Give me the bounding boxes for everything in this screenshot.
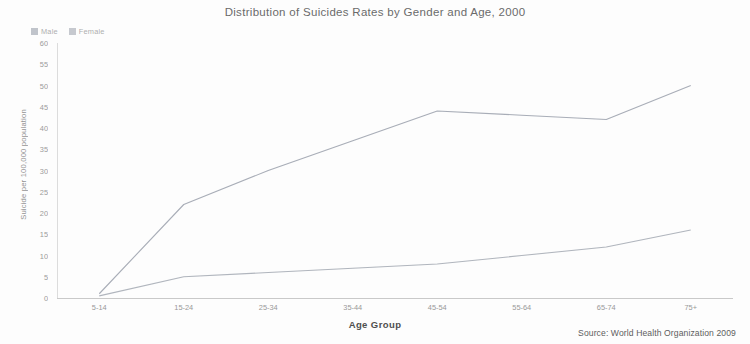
- y-axis-tick-label: 30: [22, 166, 48, 175]
- x-axis-line: [57, 298, 733, 299]
- y-axis-tick-label: 0: [22, 294, 48, 303]
- x-axis-tick-label: 75+: [651, 303, 731, 312]
- y-axis-tick-label: 5: [22, 272, 48, 281]
- series-line-male: [99, 86, 691, 294]
- y-axis: 051015202530354045505560: [14, 0, 48, 344]
- x-axis-tick-label: 25-34: [228, 303, 308, 312]
- x-axis-tick-label: 5-14: [59, 303, 139, 312]
- y-axis-tick-label: 50: [22, 81, 48, 90]
- y-axis-tick-label: 20: [22, 209, 48, 218]
- chart-title: Distribution of Suicides Rates by Gender…: [0, 6, 750, 18]
- series-line-female: [99, 230, 691, 296]
- legend-label: Female: [79, 27, 105, 36]
- y-axis-tick-label: 45: [22, 102, 48, 111]
- y-axis-tick-label: 15: [22, 230, 48, 239]
- x-axis-tick-label: 55-64: [482, 303, 562, 312]
- y-axis-tick-label: 35: [22, 145, 48, 154]
- x-axis-tick-label: 15-24: [144, 303, 224, 312]
- legend-swatch-icon: [69, 28, 76, 35]
- y-axis-tick-label: 25: [22, 187, 48, 196]
- x-axis-tick-label: 45-54: [397, 303, 477, 312]
- x-axis-tick-label: 35-44: [313, 303, 393, 312]
- y-axis-tick-label: 60: [22, 39, 48, 48]
- y-axis-tick-label: 10: [22, 251, 48, 260]
- y-axis-tick-label: 55: [22, 60, 48, 69]
- source-note: Source: World Health Organization 2009: [578, 328, 736, 338]
- legend-entry-female[interactable]: Female: [69, 27, 105, 36]
- chart-page: Distribution of Suicides Rates by Gender…: [0, 0, 750, 344]
- series-lines: [57, 43, 733, 298]
- y-axis-tick-label: 40: [22, 124, 48, 133]
- x-axis-tick-label: 65-74: [566, 303, 646, 312]
- plot-area: [57, 43, 733, 298]
